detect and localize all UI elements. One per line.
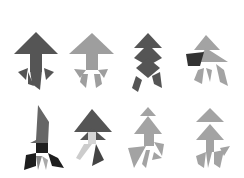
tangram-grid (0, 0, 244, 178)
